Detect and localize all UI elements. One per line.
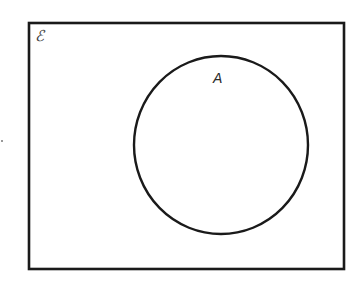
venn-diagram: ℰ A bbox=[0, 0, 362, 289]
universal-set-rectangle bbox=[29, 23, 344, 269]
stray-mark bbox=[1, 140, 3, 142]
universal-set-label: ℰ bbox=[35, 29, 44, 44]
set-a-label: A bbox=[213, 71, 222, 85]
venn-diagram-canvas bbox=[0, 0, 362, 289]
